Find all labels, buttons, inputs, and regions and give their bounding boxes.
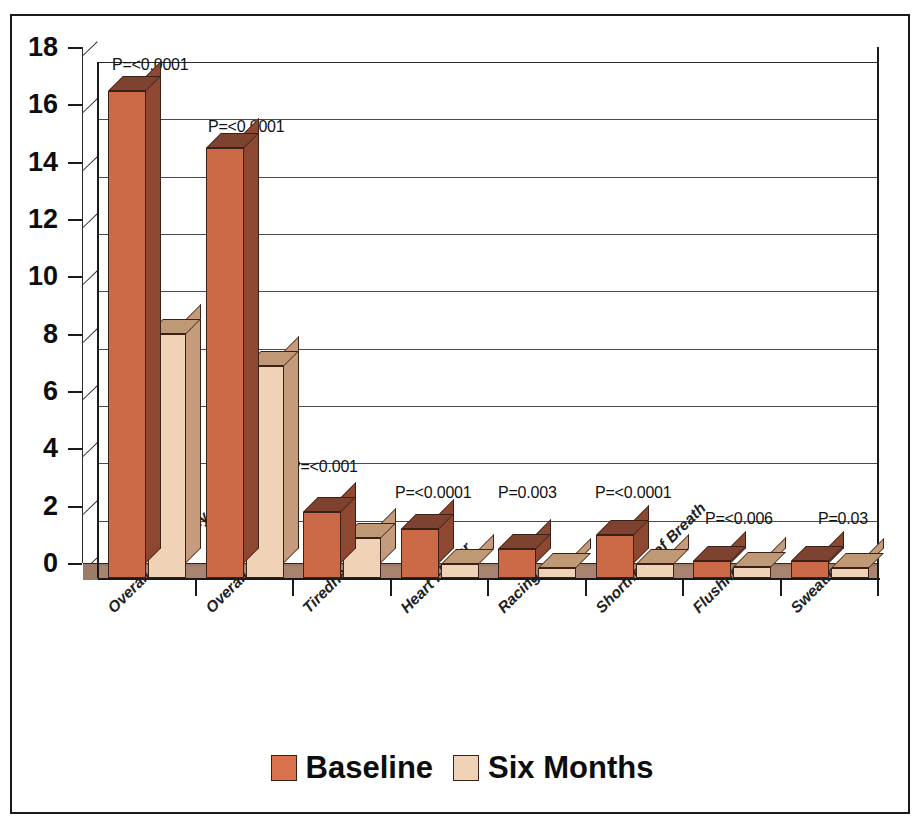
y-axis-tick <box>68 104 82 106</box>
bar-face <box>206 148 244 578</box>
y-axis-label: 12 <box>14 206 58 233</box>
y-axis-tick <box>68 47 82 49</box>
y-axis-line <box>97 62 99 578</box>
p-value-label: P=0.03 <box>818 510 868 528</box>
six-months-swatch-icon <box>453 755 479 781</box>
gridline-depth-connector <box>83 443 98 458</box>
legend-item-baseline: Baseline <box>271 752 434 783</box>
bar-face <box>441 564 479 578</box>
bar-six <box>733 567 771 578</box>
bar-face <box>831 568 869 578</box>
y-axis-label: 0 <box>14 550 58 577</box>
bar-side <box>186 304 201 563</box>
x-axis-tick <box>682 580 684 596</box>
gridline-depth-connector <box>83 99 98 114</box>
bar-six <box>441 564 479 578</box>
y-axis-tick <box>68 391 82 393</box>
legend-label-six-months: Six Months <box>488 752 653 783</box>
y-axis-label: 4 <box>14 435 58 462</box>
p-value-label: P=<0.0001 <box>595 484 672 502</box>
gridline-depth-connector <box>83 385 98 400</box>
y-axis-tick <box>68 219 82 221</box>
x-axis-tick <box>487 580 489 596</box>
bar-face <box>303 512 341 578</box>
bar-baseline <box>108 91 146 578</box>
gridline-depth-connector <box>83 156 98 171</box>
x-axis-tick <box>585 580 587 596</box>
p-value-label: P=0.003 <box>498 484 557 502</box>
x-axis-tick <box>292 580 294 596</box>
y-axis-tick <box>68 276 82 278</box>
bar-baseline <box>596 535 634 578</box>
bar-chart: 024681012141618 P=<0.0001P=<0.0001P=<0.0… <box>0 0 924 830</box>
p-value-label: P=<0.0001 <box>395 484 472 502</box>
x-axis-tick <box>877 580 879 596</box>
gridline-depth-connector <box>83 500 98 515</box>
gridline-depth-connector <box>83 213 98 228</box>
bar-six <box>831 568 869 578</box>
bar-face <box>636 564 674 578</box>
p-value-label: P=<0.006 <box>705 510 773 528</box>
bar-face <box>108 91 146 578</box>
x-axis-tick <box>390 580 392 596</box>
bar-six <box>538 568 576 578</box>
bar-face <box>693 561 731 578</box>
y-axis-tick <box>68 563 82 565</box>
gridline-depth-connector <box>83 271 98 286</box>
gridline-depth-connector <box>83 41 98 56</box>
baseline-swatch-icon <box>271 755 297 781</box>
y-axis-tick <box>68 506 82 508</box>
y-axis-back-line <box>82 47 83 563</box>
p-value-label: P=<0.001 <box>290 458 358 476</box>
y-axis-label: 10 <box>14 263 58 290</box>
bar-baseline <box>498 549 536 578</box>
chart-page: 024681012141618 P=<0.0001P=<0.0001P=<0.0… <box>0 0 924 830</box>
y-axis-label: 6 <box>14 378 58 405</box>
x-axis-tick <box>195 580 197 596</box>
bar-side <box>244 118 259 563</box>
y-axis-tick <box>68 448 82 450</box>
y-axis-tick <box>68 334 82 336</box>
y-axis-label: 8 <box>14 321 58 348</box>
bar-side <box>146 61 161 563</box>
bar-baseline <box>401 529 439 578</box>
bar-face <box>538 568 576 578</box>
bar-face <box>596 535 634 578</box>
gridline <box>98 62 878 63</box>
bar-face <box>733 567 771 578</box>
y-axis-tick <box>68 162 82 164</box>
legend-item-six-months: Six Months <box>453 752 653 783</box>
bar-six <box>636 564 674 578</box>
bar-face <box>791 561 829 578</box>
x-axis-line <box>98 578 880 580</box>
bar-baseline <box>303 512 341 578</box>
bar-face <box>498 549 536 578</box>
x-axis-tick <box>780 580 782 596</box>
y-axis-label: 14 <box>14 149 58 176</box>
plot-right-border <box>877 47 879 578</box>
legend-label-baseline: Baseline <box>306 752 434 783</box>
gridline-depth-connector <box>83 328 98 343</box>
y-axis-label: 18 <box>14 34 58 61</box>
y-axis-label: 16 <box>14 91 58 118</box>
bar-side <box>284 336 299 563</box>
bar-face <box>401 529 439 578</box>
bar-baseline <box>791 561 829 578</box>
y-axis-label: 2 <box>14 493 58 520</box>
bar-baseline <box>693 561 731 578</box>
bar-baseline <box>206 148 244 578</box>
chart-legend: Baseline Six Months <box>0 752 924 783</box>
